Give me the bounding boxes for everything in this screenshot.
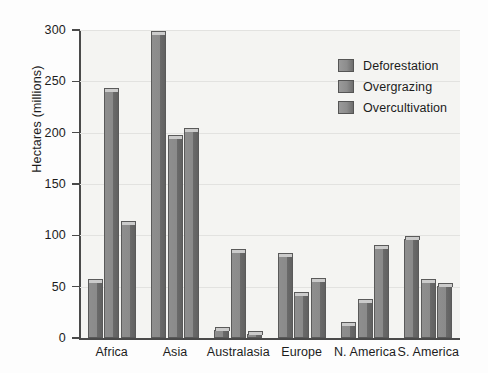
bar (374, 248, 389, 338)
bar (88, 282, 103, 338)
bar (214, 330, 229, 338)
y-axis-tick-label: 250 (22, 74, 66, 88)
y-axis-tick (72, 132, 80, 134)
legend-swatch-icon (338, 80, 354, 93)
y-axis-tick-label: 100 (22, 228, 66, 242)
legend-item: Overgrazing (338, 76, 447, 97)
legend-label: Deforestation (363, 59, 439, 73)
legend-label: Overcultivation (363, 101, 447, 115)
bar (358, 302, 373, 338)
bar (294, 295, 309, 338)
x-axis-category-label: Europe (281, 345, 322, 359)
y-axis-tick (72, 183, 80, 185)
bar (247, 334, 262, 338)
legend-item: Deforestation (338, 55, 447, 76)
y-axis-tick-label: 300 (22, 23, 66, 37)
legend-swatch-icon (338, 59, 354, 72)
y-axis-tick-label: 0 (22, 331, 66, 345)
legend-label: Overgrazing (363, 80, 432, 94)
bar (311, 281, 326, 338)
y-axis-title: Hectares (millions) (27, 39, 45, 199)
legend-swatch-icon (338, 101, 354, 114)
x-axis-category-label: Australasia (207, 345, 270, 359)
y-axis-tick-label: 200 (22, 126, 66, 140)
y-axis-tick (72, 29, 80, 31)
y-axis-tick (72, 337, 80, 339)
y-axis-tick-label: 150 (22, 177, 66, 191)
x-axis-line (79, 338, 460, 340)
y-axis-tick (72, 286, 80, 288)
bar (168, 138, 183, 338)
x-axis-category-label: Asia (163, 345, 188, 359)
bar (404, 239, 419, 338)
y-axis-tick (72, 81, 80, 83)
legend: DeforestationOvergrazingOvercultivation (338, 55, 447, 118)
gridline (80, 235, 460, 236)
bar (151, 34, 166, 338)
bar (184, 131, 199, 338)
gridline (80, 184, 460, 185)
bar (341, 325, 356, 338)
gridline (80, 30, 460, 31)
bar (437, 286, 452, 338)
bar (231, 252, 246, 338)
bar (278, 256, 293, 338)
x-axis-category-label: N. America (334, 345, 396, 359)
bar (421, 282, 436, 338)
x-axis-category-label: S. America (398, 345, 459, 359)
bar (121, 224, 136, 338)
x-axis-category-label: Africa (95, 345, 128, 359)
y-axis-tick (72, 235, 80, 237)
bar (104, 91, 119, 338)
y-axis-tick-label: 50 (22, 280, 66, 294)
gridline (80, 287, 460, 288)
legend-item: Overcultivation (338, 97, 447, 118)
chart-figure: Hectares (millions) 050100150200250300 A… (0, 0, 488, 373)
gridline (80, 133, 460, 134)
